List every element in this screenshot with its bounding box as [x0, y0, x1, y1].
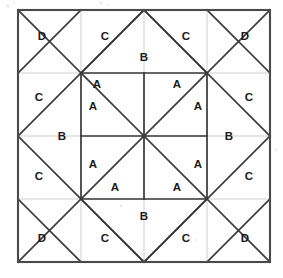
label-d-bottom-right: D: [241, 232, 249, 244]
label-a-mid-upper-l: A: [89, 100, 97, 112]
label-b-right: B: [225, 130, 233, 142]
label-a-lower-left: A: [111, 181, 119, 193]
label-c-top-right-mid: C: [182, 30, 190, 42]
label-c-bot-right-mid: C: [182, 232, 190, 244]
label-a-mid-lower-l: A: [89, 158, 97, 170]
label-c-left-upper: C: [35, 91, 43, 103]
label-b-left: B: [58, 130, 66, 142]
label-c-left-lower: C: [35, 170, 43, 182]
label-a-mid-upper-r: A: [194, 100, 202, 112]
label-a-upper-left: A: [93, 78, 101, 90]
label-a-upper-right: A: [173, 78, 181, 90]
label-a-mid-lower-r: A: [194, 158, 202, 170]
label-a-lower-right: A: [173, 181, 181, 193]
label-d-bottom-left: D: [38, 232, 46, 244]
label-c-right-lower: C: [245, 170, 253, 182]
label-d-top-left: D: [38, 30, 46, 42]
quilt-pattern-canvas: D C B C D C A A C A A B B A A C A A C D …: [0, 0, 283, 278]
label-b-top: B: [140, 51, 148, 63]
quilt-block-figure: D C B C D C A A C A A B B A A C A A C D …: [0, 0, 283, 278]
label-c-top-left-mid: C: [101, 30, 109, 42]
label-c-bot-left-mid: C: [101, 232, 109, 244]
label-c-right-upper: C: [245, 91, 253, 103]
label-d-top-right: D: [241, 30, 249, 42]
label-b-bottom: B: [140, 210, 148, 222]
